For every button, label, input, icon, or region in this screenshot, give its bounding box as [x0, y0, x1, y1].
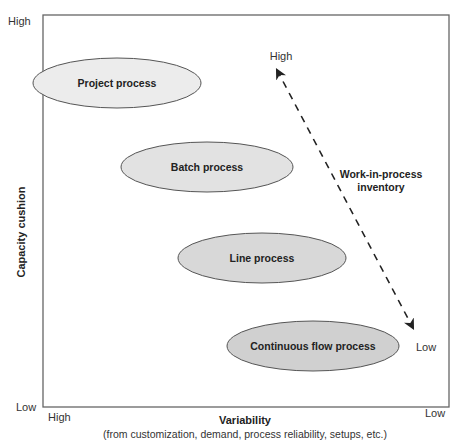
project-label: Project process: [78, 77, 157, 89]
batch-label: Batch process: [171, 161, 244, 173]
x-axis-title: Variability: [219, 414, 272, 426]
y-axis-high-label: High: [8, 15, 31, 27]
process-line: Line process: [178, 233, 346, 283]
continuous-label: Continuous flow process: [250, 340, 376, 352]
process-project: Project process: [33, 58, 201, 108]
y-axis-title: Capacity cushion: [15, 186, 27, 277]
wip-label-line1: Work-in-process: [340, 168, 423, 180]
wip-double-arrow: [277, 70, 413, 328]
process-batch: Batch process: [121, 142, 293, 192]
y-axis-low-label: Low: [16, 401, 36, 413]
process-capacity-diagram: High Low Capacity cushion High Low Varia…: [0, 0, 454, 443]
x-axis-low-label: Low: [425, 407, 445, 419]
wip-label-line2: inventory: [357, 181, 404, 193]
wip-high-label: High: [270, 50, 293, 62]
process-continuous-flow: Continuous flow process: [227, 321, 399, 371]
line-label: Line process: [230, 252, 295, 264]
x-axis-subtitle: (from customization, demand, process rel…: [103, 428, 387, 440]
wip-low-label: Low: [416, 341, 436, 353]
x-axis-high-label: High: [48, 411, 71, 423]
